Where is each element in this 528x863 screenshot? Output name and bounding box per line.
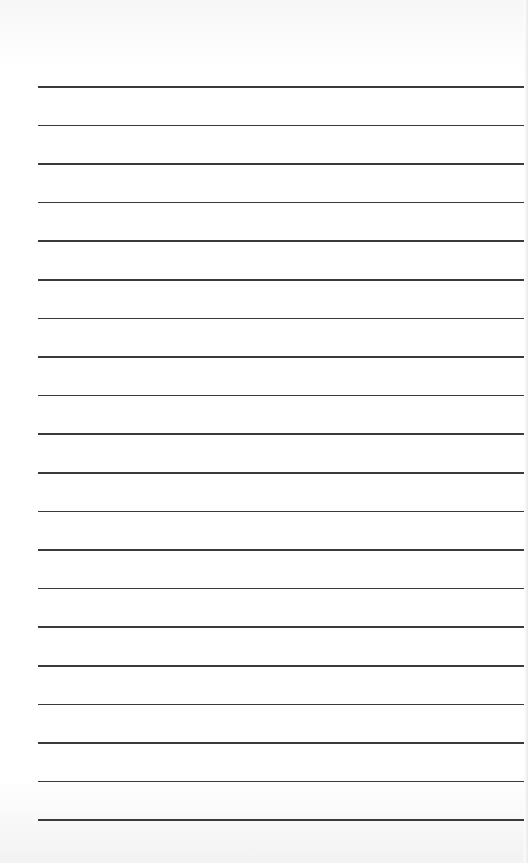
ruled-line: [38, 202, 524, 204]
ruled-line: [38, 395, 524, 397]
ruled-line: [38, 626, 524, 628]
paper-right-edge: [524, 0, 528, 863]
ruled-line: [38, 356, 524, 358]
ruled-line: [38, 163, 524, 165]
ruled-line: [38, 549, 524, 551]
ruled-line: [38, 318, 524, 320]
ruled-line: [38, 511, 524, 513]
ruled-line: [38, 704, 524, 706]
ruled-line: [38, 781, 524, 783]
ruled-line: [38, 86, 524, 88]
lined-paper-sheet: [0, 0, 528, 863]
ruled-line: [38, 819, 524, 821]
ruled-line: [38, 665, 524, 667]
ruled-line: [38, 588, 524, 590]
ruled-line: [38, 433, 524, 435]
ruled-line: [38, 742, 524, 744]
ruled-line: [38, 240, 524, 242]
ruled-line: [38, 472, 524, 474]
ruled-line: [38, 125, 524, 127]
ruled-line: [38, 279, 524, 281]
